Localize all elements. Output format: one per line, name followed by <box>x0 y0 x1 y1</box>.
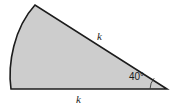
label-upper-side-k: k <box>97 31 102 42</box>
label-lower-side-k: k <box>76 94 81 105</box>
sector-figure-svg <box>0 0 177 107</box>
figure-canvas: k k 40° <box>0 0 177 107</box>
label-angle-40-degrees: 40° <box>129 72 144 82</box>
